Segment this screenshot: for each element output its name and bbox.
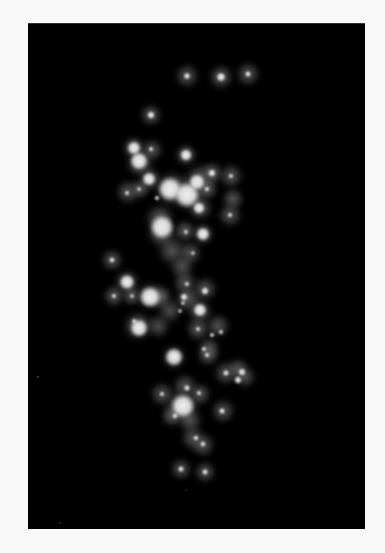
bright-core (109, 257, 115, 263)
bright-core (193, 202, 206, 215)
bright-core (184, 385, 190, 391)
bright-core (202, 469, 208, 475)
bright-core (204, 186, 209, 191)
bright-core (209, 332, 214, 337)
bright-core (172, 413, 178, 419)
bright-core (200, 441, 206, 447)
bright-core (219, 408, 225, 414)
dark-field-panel (28, 23, 365, 529)
bright-core (142, 172, 156, 186)
bright-core (191, 251, 195, 255)
point-source-density-map (28, 24, 365, 529)
bright-core (139, 286, 161, 308)
bright-core (196, 227, 210, 241)
bright-core (164, 347, 183, 366)
bright-core (208, 169, 216, 177)
stray-speck (37, 376, 39, 378)
bright-core (245, 71, 251, 77)
bright-core (196, 390, 201, 395)
bright-core (159, 391, 164, 396)
bright-core (131, 318, 136, 323)
bright-core (216, 72, 226, 82)
bright-core (130, 294, 134, 298)
bright-core (184, 281, 189, 286)
bright-core (147, 111, 155, 119)
bright-core (184, 230, 189, 235)
bright-core (195, 326, 200, 331)
bright-core (238, 368, 246, 376)
bright-core (218, 329, 223, 334)
stray-speck (59, 522, 61, 524)
bright-core (188, 173, 206, 191)
bright-core (180, 293, 188, 301)
bright-core (181, 301, 185, 305)
bright-core (183, 72, 190, 79)
bright-core (227, 212, 232, 217)
bright-core (180, 149, 193, 162)
bright-core (178, 466, 184, 472)
bright-core (223, 370, 229, 376)
glow-halos (97, 58, 264, 487)
bright-core (204, 352, 209, 357)
bright-core (178, 309, 182, 313)
bright-core (234, 376, 242, 384)
bright-core (201, 287, 209, 295)
bright-core (193, 303, 207, 317)
bright-core (119, 274, 135, 290)
bright-core (148, 146, 153, 151)
bright-core (129, 151, 148, 170)
bright-core (137, 187, 141, 191)
bright-core (193, 435, 199, 441)
bright-core (154, 195, 159, 200)
bright-core (149, 214, 175, 240)
bright-core (111, 293, 116, 298)
bright-core (201, 346, 206, 351)
bright-core (228, 173, 233, 178)
stray-speck (185, 489, 186, 490)
image-frame (0, 0, 385, 553)
bright-core (124, 190, 129, 195)
glow-halo (146, 314, 170, 338)
